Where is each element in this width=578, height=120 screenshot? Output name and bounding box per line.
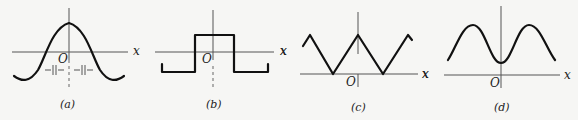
panel-b-caption: (b) [206,98,222,111]
panel-b: O x (b) [155,10,287,111]
panel-c-side-label: x [280,44,287,58]
panel-a-x-label: x [133,44,140,58]
panel-d: x O x (d) [422,6,571,114]
panel-d-caption: (d) [494,101,510,114]
panel-c-caption: (c) [351,101,366,114]
panel-d-x-label: x [564,68,571,82]
panel-d-side-label: x [422,67,429,81]
panel-b-origin-label: O [202,52,212,66]
panel-b-curve [162,35,268,72]
figure-canvas: O x (a) O x (b) x O x (c) [0,0,578,120]
panel-a: O x (a) [12,8,140,111]
panel-a-caption: (a) [60,98,75,111]
panel-c: x O x (c) [280,12,429,114]
panel-a-origin-label: O [58,52,68,66]
panel-c-origin-label: O [346,75,356,89]
panel-d-origin-label: O [490,76,500,90]
